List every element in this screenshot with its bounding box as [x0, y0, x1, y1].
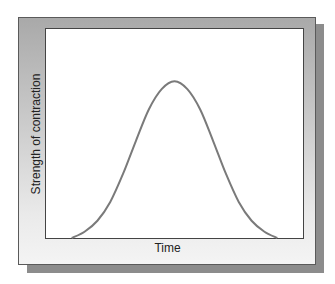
series-line-contraction — [72, 81, 278, 238]
y-axis-label: Strength of contraction — [29, 74, 43, 195]
series-layer — [72, 81, 278, 238]
x-axis-label: Time — [0, 241, 335, 255]
